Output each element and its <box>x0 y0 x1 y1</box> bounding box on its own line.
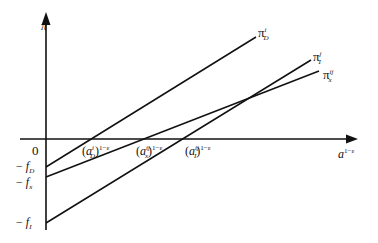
cutoff-sup: i <box>92 144 94 152</box>
line-sub: D <box>264 34 269 42</box>
line-sub: I <box>319 58 321 66</box>
x-axis-arrow-icon <box>346 135 358 144</box>
line-sub: x <box>328 76 331 84</box>
intercept-label-fx: − fx <box>16 176 32 191</box>
cutoff-exp: 1−ε <box>200 144 210 152</box>
y-axis-label-text: π <box>41 19 47 33</box>
profit-diagram <box>0 0 378 243</box>
intercept-sign: − <box>16 215 23 229</box>
line-pi-x <box>46 71 319 177</box>
cutoff-exp: 1−ε <box>152 144 162 152</box>
cutoff-label-aD: (aiD)1−ε <box>82 145 109 160</box>
line-sup: i <box>265 26 267 34</box>
cutoff-label-ax: (aijx)1−ε <box>136 145 162 160</box>
line-sup: ij <box>330 68 334 76</box>
line-sup: j <box>320 50 322 58</box>
intercept-sign: − <box>16 159 23 173</box>
cutoff-label-aI: (aijI)1−ε <box>185 145 211 160</box>
origin-label: 0 <box>32 144 39 157</box>
x-axis-label-exp: 1−ε <box>344 147 354 155</box>
intercept-label-fI: − fI <box>16 216 31 231</box>
line-label-pi-D: πiD <box>258 26 269 42</box>
intercept-sign: − <box>16 175 23 189</box>
intercept-sub: I <box>29 223 31 231</box>
intercept-label-fD: − fD <box>16 160 34 175</box>
intercept-sub: x <box>29 183 32 191</box>
x-axis-label: a1−ε <box>338 148 354 160</box>
cutoff-exp: 1−ε <box>99 144 109 152</box>
line-label-pi-I: πjI <box>313 50 321 66</box>
line-label-pi-x: πijx <box>323 68 332 84</box>
y-axis-label: π <box>41 20 47 32</box>
intercept-sub: D <box>29 167 34 175</box>
